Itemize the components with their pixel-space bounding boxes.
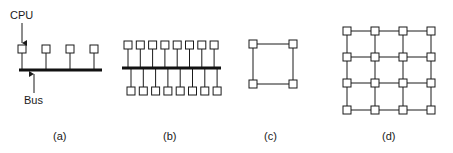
cpu-node [427, 106, 435, 114]
cpu-node [124, 41, 132, 49]
cpu-label: CPU [10, 9, 33, 21]
cpu-node [42, 45, 50, 53]
memory-node [189, 87, 197, 95]
cpu-node [343, 106, 351, 114]
cpu-node [399, 27, 407, 35]
cpu-node [399, 79, 407, 87]
memory-node [201, 87, 209, 95]
cpu-node [371, 53, 379, 61]
caption-b: (b) [163, 130, 176, 142]
cpu-node [343, 27, 351, 35]
memory-node [213, 87, 221, 95]
cpu-node [249, 40, 257, 48]
cpu-node [18, 45, 26, 53]
memory-node [176, 87, 184, 95]
memory-node [127, 87, 135, 95]
cpu-node [210, 41, 218, 49]
panel-c-ring: (c) [249, 40, 297, 142]
cpu-node [343, 79, 351, 87]
cpu-node [343, 53, 351, 61]
cpu-node [427, 53, 435, 61]
cpu-node [371, 27, 379, 35]
cpu-node [371, 106, 379, 114]
cpu-node [399, 53, 407, 61]
cpu-node [427, 79, 435, 87]
caption-a: (a) [53, 130, 66, 142]
cpu-node [186, 41, 194, 49]
interconnection-diagram: CPU Bus (a) (b) (c) (d) [0, 0, 453, 153]
panel-d-mesh: (d) [343, 27, 435, 142]
caption-c: (c) [264, 130, 277, 142]
cpu-node [249, 80, 257, 88]
memory-node [139, 87, 147, 95]
cpu-node [136, 41, 144, 49]
cpu-node [289, 80, 297, 88]
cpu-node [371, 79, 379, 87]
caption-d: (d) [382, 130, 395, 142]
panel-b-double-bus: (b) [122, 41, 221, 142]
memory-node [164, 87, 172, 95]
cpu-node [161, 41, 169, 49]
cpu-node [90, 45, 98, 53]
cpu-node [289, 40, 297, 48]
cpu-node [66, 45, 74, 53]
cpu-node [399, 106, 407, 114]
cpu-node [173, 41, 181, 49]
panel-a-single-bus: CPU Bus (a) [10, 9, 102, 142]
cpu-node [198, 41, 206, 49]
cpu-node [427, 27, 435, 35]
cpu-node [149, 41, 157, 49]
memory-node [152, 87, 160, 95]
bus-label: Bus [24, 94, 43, 106]
